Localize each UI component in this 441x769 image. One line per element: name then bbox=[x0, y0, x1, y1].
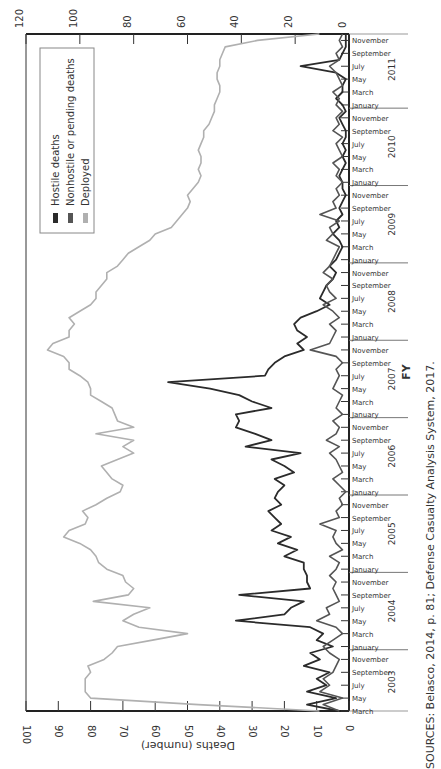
deaths-tick-label: 20 bbox=[279, 725, 290, 738]
month-label: May bbox=[352, 695, 366, 703]
month-label: January bbox=[351, 644, 379, 652]
deaths-and-deployment-chart: 0102030405060708090100 020406080100120 M… bbox=[0, 0, 441, 769]
month-label: January bbox=[351, 334, 379, 342]
month-label: July bbox=[351, 295, 365, 303]
fiscal-year-label: 2009 bbox=[387, 212, 397, 235]
month-label: May bbox=[352, 618, 366, 626]
month-label: November bbox=[352, 347, 389, 355]
fiscal-year-label: 2004 bbox=[387, 599, 397, 622]
deployed-tick-label: 40 bbox=[229, 15, 240, 28]
legend-swatch bbox=[68, 213, 73, 223]
hostile-deaths-line bbox=[168, 34, 346, 711]
month-label: November bbox=[352, 502, 389, 510]
month-label: May bbox=[352, 308, 366, 316]
deployed-tick-label: 100 bbox=[68, 9, 79, 28]
deployed-tick-label: 60 bbox=[176, 15, 187, 28]
month-label: November bbox=[352, 656, 389, 664]
fiscal-year-label: 2008 bbox=[387, 290, 397, 313]
month-label: July bbox=[351, 63, 365, 71]
time-axis-ticks: MarchMayJulySeptemberNovemberJanuaryMarc… bbox=[341, 37, 408, 716]
month-label: September bbox=[352, 669, 391, 677]
legend-swatch bbox=[83, 213, 88, 223]
deaths-tick-label: 30 bbox=[247, 725, 258, 738]
month-label: January bbox=[351, 566, 379, 574]
month-label: July bbox=[351, 218, 365, 226]
month-label: May bbox=[352, 231, 366, 239]
month-label: January bbox=[351, 411, 379, 419]
deployed-tick-label: 80 bbox=[122, 15, 133, 28]
deaths-tick-label: 70 bbox=[118, 725, 129, 738]
month-label: July bbox=[351, 682, 365, 690]
month-label: September bbox=[352, 515, 391, 523]
month-label: July bbox=[351, 450, 365, 458]
legend-swatch bbox=[53, 213, 58, 223]
deaths-tick-label: 90 bbox=[53, 725, 64, 738]
month-label: January bbox=[351, 179, 379, 187]
month-label: March bbox=[352, 89, 373, 97]
fiscal-year-label: 2010 bbox=[387, 135, 397, 158]
month-label: May bbox=[352, 76, 366, 84]
deployed-tick-label: 20 bbox=[283, 15, 294, 28]
month-label: March bbox=[352, 399, 373, 407]
legend: Hostile deathsNonhostile or pending deat… bbox=[40, 48, 94, 233]
month-label: November bbox=[352, 579, 389, 587]
month-label: November bbox=[352, 270, 389, 278]
month-label: September bbox=[352, 592, 391, 600]
month-label: July bbox=[351, 141, 365, 149]
month-label: July bbox=[351, 373, 365, 381]
legend-label: Hostile deaths bbox=[50, 134, 61, 206]
deaths-axis-ticks: 0102030405060708090100 bbox=[21, 701, 355, 744]
month-label: September bbox=[352, 205, 391, 213]
month-label: May bbox=[352, 540, 366, 548]
deaths-tick-label: 40 bbox=[215, 725, 226, 738]
month-label: March bbox=[352, 631, 373, 639]
fiscal-year-label: 2005 bbox=[387, 522, 397, 545]
fiscal-year-label: 2007 bbox=[387, 367, 397, 390]
deaths-tick-label: 10 bbox=[312, 725, 323, 738]
legend-label: Deployed bbox=[80, 158, 91, 206]
month-label: November bbox=[352, 424, 389, 432]
deaths-axis-title: Deaths (number) bbox=[141, 739, 235, 752]
month-label: September bbox=[352, 50, 391, 58]
fiscal-year-label: 2011 bbox=[387, 58, 397, 81]
month-label: November bbox=[352, 192, 389, 200]
deaths-tick-label: 50 bbox=[183, 725, 194, 738]
month-label: March bbox=[352, 708, 373, 716]
month-label: July bbox=[351, 527, 365, 535]
month-label: November bbox=[352, 115, 389, 123]
month-label: July bbox=[351, 605, 365, 613]
month-label: September bbox=[352, 128, 391, 136]
month-label: May bbox=[352, 386, 366, 394]
month-label: November bbox=[352, 37, 389, 45]
month-label: January bbox=[351, 257, 379, 265]
month-label: September bbox=[352, 360, 391, 368]
legend-label: Nonhostile or pending deaths bbox=[65, 58, 76, 206]
month-label: March bbox=[352, 166, 373, 174]
nonhostile-or-pending-deaths-line bbox=[310, 34, 346, 711]
source-note: SOURCES: Belasco, 2014, p. 81; Defense C… bbox=[424, 361, 437, 769]
month-label: May bbox=[352, 463, 366, 471]
deployed-axis-ticks: 020406080100120 bbox=[14, 9, 349, 44]
deaths-tick-label: 100 bbox=[21, 725, 32, 744]
month-label: September bbox=[352, 437, 391, 445]
month-label: March bbox=[352, 553, 373, 561]
fiscal-year-label: 2006 bbox=[387, 445, 397, 468]
fiscal-year-label: 2003 bbox=[387, 671, 397, 694]
month-label: September bbox=[352, 282, 391, 290]
fy-axis-title: FY bbox=[400, 363, 413, 380]
month-label: March bbox=[352, 476, 373, 484]
deployed-tick-label: 0 bbox=[337, 22, 348, 28]
deployed-tick-label: 120 bbox=[14, 9, 25, 28]
month-label: January bbox=[351, 489, 379, 497]
month-label: March bbox=[352, 244, 373, 252]
month-label: March bbox=[352, 321, 373, 329]
deaths-tick-label: 0 bbox=[344, 725, 355, 731]
deaths-tick-label: 60 bbox=[150, 725, 161, 738]
deaths-tick-label: 80 bbox=[86, 725, 97, 738]
month-label: May bbox=[352, 154, 366, 162]
month-label: January bbox=[351, 102, 379, 110]
